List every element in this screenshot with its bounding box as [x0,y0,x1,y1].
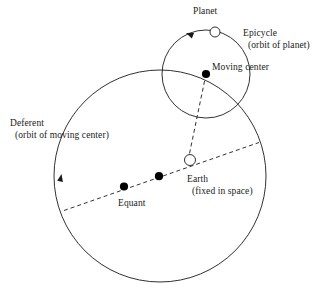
planet-label: Planet [193,6,217,18]
moving-center-label: Moving center [212,62,269,74]
epicycle-label: Epicycle (orbit of planet) [243,28,310,51]
epicycle-label-sublabel: (orbit of planet) [243,40,310,52]
deferent-label: Deferent (orbit of moving center) [10,118,109,141]
radius-line-moving-center-to-earth [189,74,206,156]
deferent-direction-arrow-icon [57,173,64,181]
deferent-label-text: Deferent [10,118,44,128]
earth-label-sublabel: (fixed in space) [187,186,253,198]
equant-label: Equant [118,198,146,210]
planet-marker [210,27,220,37]
equant-label-text: Equant [118,198,146,208]
moving-center-label-text: Moving center [212,62,269,72]
moving-center-marker [202,70,210,78]
ptolemaic-epicycle-diagram: Planet Epicycle (orbit of planet) Moving… [0,0,332,299]
earth-label: Earth (fixed in space) [187,174,253,197]
earth-label-text: Earth [187,174,208,184]
equant-marker [120,182,128,190]
deferent-center-marker [155,172,163,180]
deferent-label-sublabel: (orbit of moving center) [10,130,109,142]
planet-label-text: Planet [193,6,217,16]
epicycle-label-text: Epicycle [243,28,277,38]
earth-marker [185,155,196,166]
